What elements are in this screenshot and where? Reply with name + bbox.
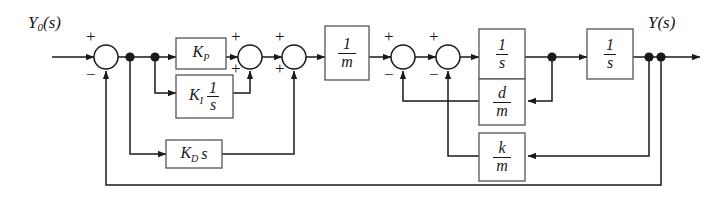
sum2-bottom-sign: + — [231, 60, 241, 77]
kd-block-rect — [166, 140, 222, 168]
dm-block-rect — [479, 79, 525, 125]
sum5-top-sign: + — [429, 28, 439, 45]
output-signal-label: Y(s) — [648, 14, 675, 31]
wire-km-to-sum5 — [448, 71, 479, 156]
node-dot-n5 — [656, 52, 665, 61]
int1-block-rect — [479, 29, 525, 79]
control-block-diagram: Y0(s) Y(s) + − + + + + + − + − KP KI 1 s… — [0, 0, 713, 201]
wire-node2-to-ki — [155, 57, 176, 93]
sum4-circle — [391, 45, 415, 69]
ki-block-rect — [176, 75, 233, 118]
node-dot-n3 — [547, 52, 556, 61]
wire-dm-to-sum4 — [403, 71, 479, 101]
sum4-top-sign: + — [384, 28, 394, 45]
wire-node1-to-kd — [130, 57, 166, 154]
node-dot-n4 — [644, 52, 653, 61]
sum4-bottom-sign: − — [384, 66, 394, 83]
sum2-circle — [238, 45, 262, 69]
int2-block-rect — [587, 29, 633, 79]
sum1-bottom-sign: − — [86, 66, 96, 83]
sum3-bottom-sign: + — [275, 60, 285, 77]
sum2-top-sign: + — [231, 28, 241, 45]
input-signal-label: Y0(s) — [28, 14, 61, 33]
sum1-circle — [94, 45, 118, 69]
kp-block-rect — [176, 38, 226, 69]
km-block-rect — [479, 133, 525, 181]
wire-node3-to-dm — [528, 57, 552, 101]
sum1-top-sign: + — [86, 28, 96, 45]
invm-block-rect — [325, 26, 369, 80]
sum3-top-sign: + — [275, 28, 285, 45]
sum5-circle — [436, 45, 460, 69]
sum3-circle — [282, 45, 306, 69]
sum5-bottom-sign: − — [429, 66, 439, 83]
node-dot-n1 — [125, 52, 134, 61]
diagram-wires — [0, 0, 713, 201]
input-label-suffix: (s) — [43, 13, 61, 32]
node-dot-n2 — [150, 52, 159, 61]
